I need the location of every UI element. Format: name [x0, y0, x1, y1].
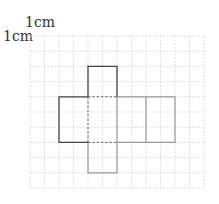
cube-net-diagram: [0, 0, 219, 204]
